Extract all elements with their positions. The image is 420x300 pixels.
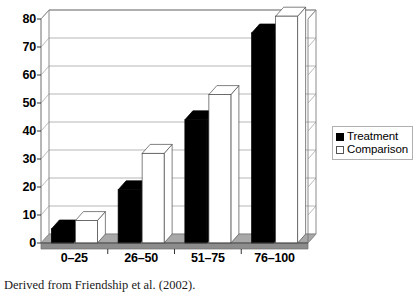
chart-legend: Treatment Comparison	[332, 126, 413, 160]
legend-label-treatment: Treatment	[347, 131, 398, 143]
y-tick-label-40: 40	[10, 125, 36, 138]
bar-comparison-0	[75, 212, 105, 243]
figure: 01020304050607080 0–2526–5051–7576–100 T…	[0, 0, 420, 300]
y-tick-label-80: 80	[10, 13, 36, 26]
x-tick-label-3: 76–100	[235, 252, 315, 265]
y-tick-label-0: 0	[10, 237, 36, 250]
y-tick-label-10: 10	[10, 209, 36, 222]
bar-comparison-2	[209, 86, 239, 243]
y-tick-label-50: 50	[10, 97, 36, 110]
figure-caption: Derived from Friendship et al. (2002).	[4, 278, 195, 293]
bar-comparison-1	[142, 144, 172, 243]
y-tick-label-20: 20	[10, 181, 36, 194]
bar-comparison-3	[276, 7, 306, 243]
chart-plot-area: 01020304050607080 0–2526–5051–7576–100	[0, 0, 330, 262]
y-tick-label-60: 60	[10, 69, 36, 82]
chart-canvas	[0, 0, 330, 262]
filled-square-icon	[336, 133, 344, 141]
x-axis-category-labels: 0–2526–5051–7576–100	[0, 252, 330, 274]
legend-label-comparison: Comparison	[347, 144, 408, 156]
legend-entry-comparison: Comparison	[336, 143, 408, 156]
y-tick-label-70: 70	[10, 41, 36, 54]
y-axis-tick-labels: 01020304050607080	[0, 0, 36, 262]
hollow-square-icon	[336, 146, 344, 154]
legend-entry-treatment: Treatment	[336, 130, 408, 143]
y-tick-label-30: 30	[10, 153, 36, 166]
